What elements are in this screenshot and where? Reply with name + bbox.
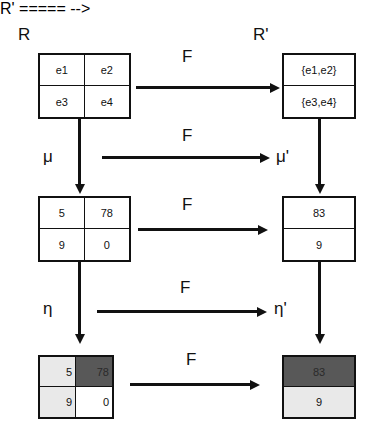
arrow-head [75,184,85,194]
functor-label-bottom: F [186,351,196,368]
matrix-cell: 9 [284,387,354,417]
matrix-cell: 5 [40,357,76,387]
arrow-head [315,334,325,344]
matrix-cell: 0 [85,229,130,260]
matrix-cell: 9 [40,387,76,417]
matrix-cell: 78 [85,198,130,229]
morphism-label-mu: μ [43,148,53,165]
arrow-head [315,184,325,194]
arrow-shaft [318,119,321,184]
target-category-label: R' [253,26,269,43]
arrow-shaft [102,156,260,159]
matrix-cell: e3 [40,86,85,117]
arrow-shaft [318,262,321,334]
matrix-cell: 5 [40,198,85,229]
shaded-matrix-eta-prime: 83 9 [282,355,356,419]
relation-matrix-R-prime: {e1,e2} {e3,e4} [282,53,356,119]
relation-matrix-R: e1 e2 e3 e4 [38,53,131,119]
measure-matrix-mu-prime: 83 9 [282,196,356,262]
matrix-cell: {e3,e4} [284,86,354,117]
arrow-shaft [78,262,81,334]
arrow-shaft [97,310,257,313]
matrix-cell: e2 [85,55,130,86]
arrow-shaft [78,119,81,184]
matrix-cell: e4 [85,86,130,117]
arrow-head [260,153,270,163]
shaded-matrix-eta: 5 78 9 0 [38,355,114,419]
diagram-canvas: R R' R' ===== --> e1 e2 e3 e4 F {e1,e2} … [0,0,380,444]
arrow-head [257,307,267,317]
matrix-cell: 9 [40,229,85,260]
morphism-label-eta: η [43,300,52,317]
matrix-cell: 83 [284,357,354,387]
arrow-head [258,225,268,235]
matrix-cell: {e1,e2} [284,55,354,86]
source-category-label: R [18,26,30,43]
arrow-shaft [136,86,270,89]
arrow-shaft [130,383,250,386]
matrix-cell: 83 [284,198,354,229]
functor-label-middle: F [182,196,192,213]
matrix-cell: 78 [76,357,112,387]
matrix-cell: 0 [76,387,112,417]
measure-matrix-mu: 5 78 9 0 [38,196,131,262]
arrow-head [250,380,260,390]
arrow-head [270,83,280,93]
arrow-shaft [138,228,258,231]
matrix-cell: 9 [284,229,354,260]
functor-label-mu-row: F [182,127,192,144]
functor-label-eta-row: F [180,279,190,296]
morphism-label-eta-prime: η' [274,300,287,317]
arrow-head [75,334,85,344]
functor-label-top: F [182,48,192,65]
matrix-cell: e1 [40,55,85,86]
morphism-label-mu-prime: μ' [276,148,289,165]
